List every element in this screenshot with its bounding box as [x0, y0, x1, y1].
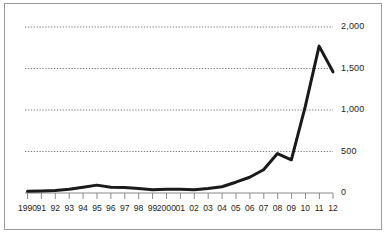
x-tick-label-94: 94 — [78, 203, 88, 213]
x-tick-label-95: 95 — [92, 203, 102, 213]
data-series-line — [28, 46, 334, 191]
x-tick-label-2000: 2000 — [157, 203, 176, 213]
x-axis-ticks — [28, 193, 334, 199]
x-tick-label-08: 08 — [273, 203, 283, 213]
x-axis — [25, 193, 333, 199]
y-tick-label-1000: 1,000 — [341, 104, 365, 114]
x-tick-label-04: 04 — [217, 203, 227, 213]
x-tick-label-07: 07 — [259, 203, 269, 213]
x-tick-label-10: 10 — [300, 203, 310, 213]
x-tick-label-98: 98 — [134, 203, 144, 213]
x-tick-label-91: 91 — [37, 203, 47, 213]
x-tick-label-05: 05 — [231, 203, 241, 213]
x-tick-label-97: 97 — [120, 203, 130, 213]
gridlines — [25, 27, 333, 152]
x-tick-label-09: 09 — [287, 203, 297, 213]
y-tick-label-0: 0 — [341, 187, 346, 197]
line-chart — [0, 0, 389, 236]
x-tick-label-03: 03 — [203, 203, 213, 213]
x-tick-label-01: 01 — [175, 203, 185, 213]
x-tick-label-92: 92 — [50, 203, 60, 213]
y-tick-label-2000: 2,000 — [341, 21, 365, 31]
y-tick-label-1500: 1,500 — [341, 63, 365, 73]
x-tick-label-02: 02 — [189, 203, 199, 213]
y-tick-label-500: 500 — [341, 146, 357, 156]
x-tick-label-96: 96 — [106, 203, 116, 213]
x-tick-label-1990: 1990 — [18, 203, 37, 213]
x-tick-label-11: 11 — [315, 203, 324, 213]
x-tick-label-06: 06 — [245, 203, 255, 213]
x-tick-label-12: 12 — [328, 203, 338, 213]
x-tick-label-93: 93 — [64, 203, 74, 213]
